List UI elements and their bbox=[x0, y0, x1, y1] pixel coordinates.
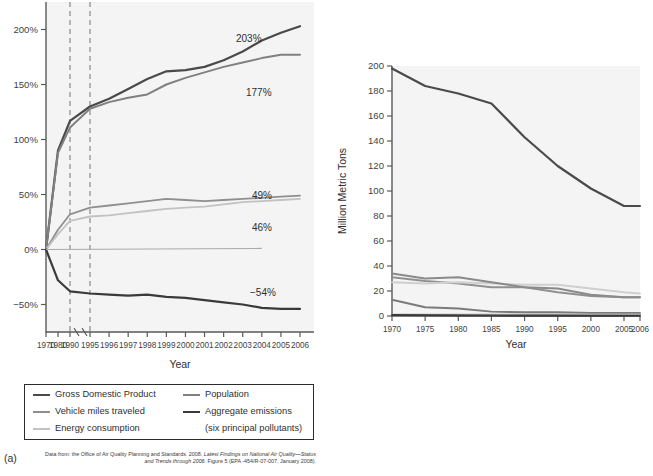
x-tick-label-b: 1995 bbox=[549, 325, 568, 334]
legend-swatch-icon bbox=[183, 394, 200, 396]
chart-b-canvas: 200180160140120100806040200 197019751980… bbox=[330, 0, 653, 355]
y-tick-label-a: 150% bbox=[13, 79, 38, 90]
y-tick-label-b: 80 bbox=[373, 210, 384, 221]
value-annotation-a: 177% bbox=[246, 87, 272, 98]
x-tick-label-a: 2005 bbox=[272, 341, 291, 350]
value-annotation-a: 46% bbox=[252, 222, 272, 233]
x-tick-label-a: 2000 bbox=[176, 341, 195, 350]
x-tick-label-a: 1997 bbox=[119, 341, 138, 350]
value-annotation-a: −54% bbox=[250, 287, 276, 298]
credit-lead: Data from: the Office of Air Quality Pla… bbox=[45, 451, 204, 457]
value-annotation-a: 203% bbox=[236, 33, 262, 44]
legend-item-a: Gross Domestic Product bbox=[33, 390, 183, 400]
legend-item-a: Aggregate emissions bbox=[183, 407, 313, 417]
y-ticks-b bbox=[387, 66, 392, 316]
credit-tail: Figure 5 (EPA -454/R-07-007, January 200… bbox=[206, 458, 316, 464]
y-tick-label-b: 160 bbox=[368, 110, 384, 121]
x-tick-label-a: 2001 bbox=[195, 341, 214, 350]
y-tick-label-a: −50% bbox=[13, 299, 38, 310]
legend-label-a: (six principal pollutants) bbox=[205, 424, 302, 434]
legend-item-a: (six principal pollutants) bbox=[183, 424, 313, 434]
y-tick-label-a: 50% bbox=[19, 189, 39, 200]
y-tick-label-b: 200 bbox=[368, 60, 384, 71]
panel-tag-a: (a) bbox=[4, 452, 17, 464]
x-tick-label-b: 1980 bbox=[449, 325, 468, 334]
y-tick-label-b: 20 bbox=[373, 285, 384, 296]
y-axis-title-b: Million Metric Tons bbox=[336, 148, 348, 234]
chart-a-canvas: 200%150%100%50%0%−50% 197019801990199519… bbox=[0, 0, 330, 378]
x-ticks-a bbox=[46, 332, 300, 337]
legend-item-a: Population bbox=[183, 390, 313, 400]
legend-swatch-icon bbox=[33, 394, 50, 396]
x-tick-label-a: 2004 bbox=[253, 341, 272, 350]
x-tick-label-b: 1990 bbox=[515, 325, 534, 334]
plot-background-a bbox=[46, 2, 314, 332]
legend-swatch-icon bbox=[183, 411, 200, 413]
legend-a: Gross Domestic ProductPopulationVehicle … bbox=[24, 384, 314, 440]
y-tick-labels-b: 200180160140120100806040200 bbox=[368, 60, 384, 321]
legend-swatch-icon bbox=[33, 411, 50, 413]
y-tick-label-b: 40 bbox=[373, 260, 384, 271]
source-credit-a: Data from: the Office of Air Quality Pla… bbox=[36, 451, 316, 466]
y-tick-label-b: 60 bbox=[373, 235, 384, 246]
x-tick-labels-b: 197019751980198519901995200020052006 bbox=[383, 325, 650, 334]
x-tick-label-a: 2003 bbox=[234, 341, 253, 350]
x-tick-labels-a: 1970198019901995199619971998199920002001… bbox=[37, 341, 310, 350]
y-tick-labels-a: 200%150%100%50%0%−50% bbox=[13, 24, 38, 310]
x-tick-label-a: 1999 bbox=[157, 341, 176, 350]
x-axis-title-b: Year bbox=[505, 338, 527, 350]
x-tick-label-b: 2000 bbox=[582, 325, 601, 334]
legend-label-a: Vehicle miles traveled bbox=[55, 407, 145, 417]
legend-item-a: Vehicle miles traveled bbox=[33, 407, 183, 417]
series-line-b bbox=[392, 315, 640, 316]
legend-label-a: Gross Domestic Product bbox=[55, 390, 156, 400]
x-axis-title-a: Year bbox=[169, 358, 191, 370]
y-ticks-a bbox=[41, 30, 46, 305]
y-tick-label-a: 200% bbox=[13, 24, 38, 35]
y-tick-label-b: 180 bbox=[368, 85, 384, 96]
legend-swatch-icon bbox=[33, 428, 50, 430]
figure-panel-a: 200%150%100%50%0%−50% 197019801990199519… bbox=[0, 0, 330, 476]
legend-label-a: Energy consumption bbox=[55, 424, 140, 434]
x-tick-label-a: 2006 bbox=[291, 341, 310, 350]
x-tick-label-b: 2006 bbox=[631, 325, 650, 334]
legend-item-a: Energy consumption bbox=[33, 424, 183, 434]
y-tick-label-a: 0% bbox=[24, 244, 38, 255]
x-tick-label-b: 1970 bbox=[383, 325, 402, 334]
x-tick-label-a: 1990 bbox=[61, 341, 80, 350]
x-tick-label-a: 1996 bbox=[100, 341, 119, 350]
x-tick-label-a: 1998 bbox=[138, 341, 157, 350]
x-tick-label-b: 1975 bbox=[416, 325, 435, 334]
y-tick-label-b: 140 bbox=[368, 135, 384, 146]
x-tick-label-b: 1985 bbox=[482, 325, 501, 334]
value-annotation-a: 49% bbox=[252, 190, 272, 201]
figure-panel-b: 200180160140120100806040200 197019751980… bbox=[330, 0, 653, 476]
y-tick-label-a: 100% bbox=[13, 134, 38, 145]
y-tick-label-b: 0 bbox=[379, 310, 384, 321]
y-tick-label-b: 120 bbox=[368, 160, 384, 171]
x-tick-label-a: 2002 bbox=[215, 341, 234, 350]
x-tick-label-a: 1995 bbox=[81, 341, 100, 350]
legend-label-a: Aggregate emissions bbox=[205, 407, 292, 417]
y-tick-label-b: 100 bbox=[368, 185, 384, 196]
legend-label-a: Population bbox=[205, 390, 249, 400]
